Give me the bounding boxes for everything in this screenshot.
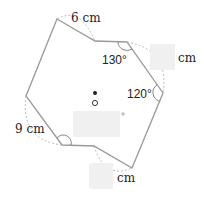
label-top-edge: 6 cm <box>71 11 101 25</box>
label-left-lower-edge: 9 cm <box>15 122 45 136</box>
angle-arc-right <box>153 85 159 101</box>
center-dot-hollow <box>92 100 97 105</box>
hidden-value-box-bottom <box>89 163 113 189</box>
small-dot <box>122 113 124 115</box>
label-bottom-right-edge: cm <box>117 171 136 185</box>
angle-arc-bottom-left <box>57 135 71 145</box>
label-right-upper-edge: cm <box>178 51 197 65</box>
hidden-value-box-center <box>73 111 120 137</box>
angle-label-right: 120° <box>127 87 152 101</box>
octagon-diagram: 6 cm cm 9 cm cm 130° 120° <box>0 0 204 202</box>
center-dot-filled <box>93 91 97 95</box>
angle-label-top-right: 130° <box>102 53 127 67</box>
hidden-value-box-right <box>150 44 175 70</box>
